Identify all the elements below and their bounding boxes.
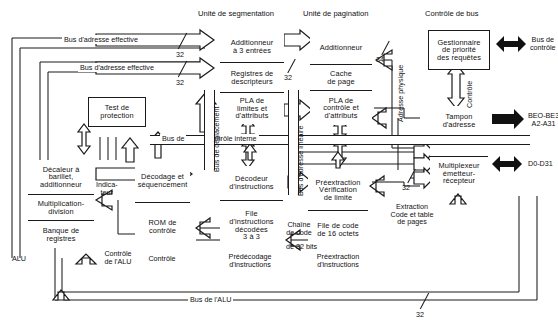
bus-width-slash-alu bbox=[420, 293, 429, 309]
block-prefetch-limit-check[interactable]: Préextraction Vérification de limite bbox=[308, 170, 368, 210]
caption-control: Contrôle bbox=[148, 255, 175, 263]
label-extraction-code-page-table: Extraction Code et table de pages bbox=[391, 203, 434, 226]
external-label-data-bus: D0-D31 bbox=[528, 160, 553, 168]
label-line: registres bbox=[46, 235, 75, 243]
bus-label-effective-address-2: Bus d'adresse effective bbox=[78, 63, 156, 72]
bus-label-physical-address: Adresse physique bbox=[396, 65, 405, 122]
external-label-address-bus: BEO-BE3 A2-A31 bbox=[528, 112, 558, 127]
label-line: protection bbox=[100, 112, 133, 120]
block-instruction-decoder[interactable]: Décodeur d'instructions bbox=[220, 166, 283, 200]
label-line: d'adresse bbox=[443, 121, 476, 129]
bus-label-control-vertical: Contrôle bbox=[465, 81, 474, 108]
caption-prefetch: Préextraction d'instructions bbox=[317, 253, 359, 268]
block-pagination-pla[interactable]: PLA de contrôle et d'attributs bbox=[310, 90, 372, 125]
label-line: séquencement bbox=[138, 181, 188, 189]
bus-width-ea2: 32 bbox=[176, 78, 184, 87]
bus-width-alu: 32 bbox=[416, 310, 424, 319]
label-line: d'instructions bbox=[229, 183, 273, 191]
caption-line: d'instructions bbox=[317, 260, 359, 269]
block-descriptor-registers[interactable]: Registres de descripteurs bbox=[220, 62, 284, 92]
bus-label-linear-address: Bus d'adresse linéaire bbox=[296, 126, 305, 197]
block-segmentation-adder[interactable]: Additionneur à 3 entrées bbox=[220, 31, 284, 62]
caption-alu: ALU bbox=[12, 255, 26, 263]
bus-label-displacement: Bus de déplacement bbox=[212, 106, 221, 172]
label-line: descripteurs bbox=[231, 78, 272, 86]
section-title-bus-control: Contrôle de bus bbox=[425, 9, 479, 18]
bus-label-alu: Bus de l'ALU bbox=[188, 295, 233, 304]
label-line: contrôle bbox=[149, 227, 176, 235]
block-transceiver-mux[interactable]: Multiplexeur émetteur- récepteur bbox=[430, 156, 488, 190]
bus-width-slash-mux bbox=[407, 169, 415, 184]
section-title-pagination: Unité de pagination bbox=[303, 9, 368, 18]
label-line: de limite bbox=[324, 194, 352, 202]
label-line: des requêtes bbox=[437, 54, 481, 62]
bus-width-slash-seg-out bbox=[287, 59, 295, 74]
block-multiply-divide[interactable]: Multiplication- division bbox=[28, 194, 94, 220]
label-line: de 16 octets bbox=[317, 230, 358, 238]
label-line: de pages bbox=[397, 217, 427, 226]
block-decode-sequencing[interactable]: Décodage et séquencement bbox=[135, 160, 190, 202]
bus-label-effective-address-1: Bus d'adresse effective bbox=[62, 35, 140, 44]
label-line: 3 à 3 bbox=[243, 233, 260, 241]
bus-width-pag-in: 34 bbox=[376, 55, 384, 64]
section-title-segmentation: Unité de segmentation bbox=[198, 9, 274, 18]
label-code-chain: Chaîne de code bbox=[286, 221, 312, 236]
bus-width-slash-ea1 bbox=[178, 33, 187, 49]
block-address-buffer[interactable]: Tampon d'adresse bbox=[430, 106, 488, 136]
block-pagination-adder[interactable]: Additionneur bbox=[310, 31, 372, 64]
block-segmentation-pla[interactable]: PLA de limites et d'attributs bbox=[220, 92, 284, 124]
label-line: A2-A31 bbox=[532, 119, 556, 128]
bus-width-slash-pag-in bbox=[381, 41, 389, 56]
caption-predecode: Prédécodage d'instructions bbox=[229, 253, 272, 268]
label-line: à 3 entrées bbox=[233, 47, 271, 55]
bus-width-ea1: 32 bbox=[176, 50, 184, 59]
label-line: teur bbox=[101, 188, 113, 197]
label-line: de page bbox=[327, 78, 354, 86]
label-line: contrôle bbox=[530, 43, 556, 52]
block-control-rom[interactable]: ROM de contrôle bbox=[135, 202, 190, 250]
external-label-control-bus: Bus de contrôle bbox=[530, 36, 556, 51]
label-line: d'attributs bbox=[325, 112, 358, 120]
label-alu-control: Contrôle de l'ALU bbox=[104, 250, 131, 265]
block-register-bank[interactable]: Banque de registres bbox=[28, 220, 94, 248]
bus-width-slash-ea2 bbox=[178, 61, 187, 77]
cpu-architecture-diagram: Unité de segmentation Unité de paginatio… bbox=[0, 0, 558, 329]
label-line: de l'ALU bbox=[105, 257, 132, 266]
block-decoded-instruction-queue[interactable]: File d'instructions décodées 3 à 3 bbox=[220, 200, 283, 250]
bus-width-seg-out: 32 bbox=[284, 73, 292, 82]
block-protection-test[interactable]: Test de protection bbox=[88, 97, 146, 127]
label-line: additionneur bbox=[40, 181, 82, 189]
label-line: division bbox=[48, 208, 73, 216]
label-line: de code bbox=[286, 228, 312, 237]
label-line: d'attributs bbox=[236, 112, 269, 120]
bus-width-mux: 32 bbox=[402, 183, 410, 192]
caption-line: d'instructions bbox=[229, 260, 271, 269]
label-indicator: Indica- teur bbox=[96, 181, 118, 196]
bus-label-internal-control-a: Bus de bbox=[160, 134, 186, 143]
label-line: récepteur bbox=[443, 177, 475, 185]
block-barrel-shifter-adder[interactable]: Décaleur à barillet, additionneur bbox=[28, 160, 94, 194]
block-page-cache[interactable]: Cache de page bbox=[310, 64, 372, 90]
label-code-chain-width: de 32 bits bbox=[286, 243, 317, 251]
block-request-priority-manager[interactable]: Gestionnaire de priorité des requêtes bbox=[428, 30, 490, 70]
